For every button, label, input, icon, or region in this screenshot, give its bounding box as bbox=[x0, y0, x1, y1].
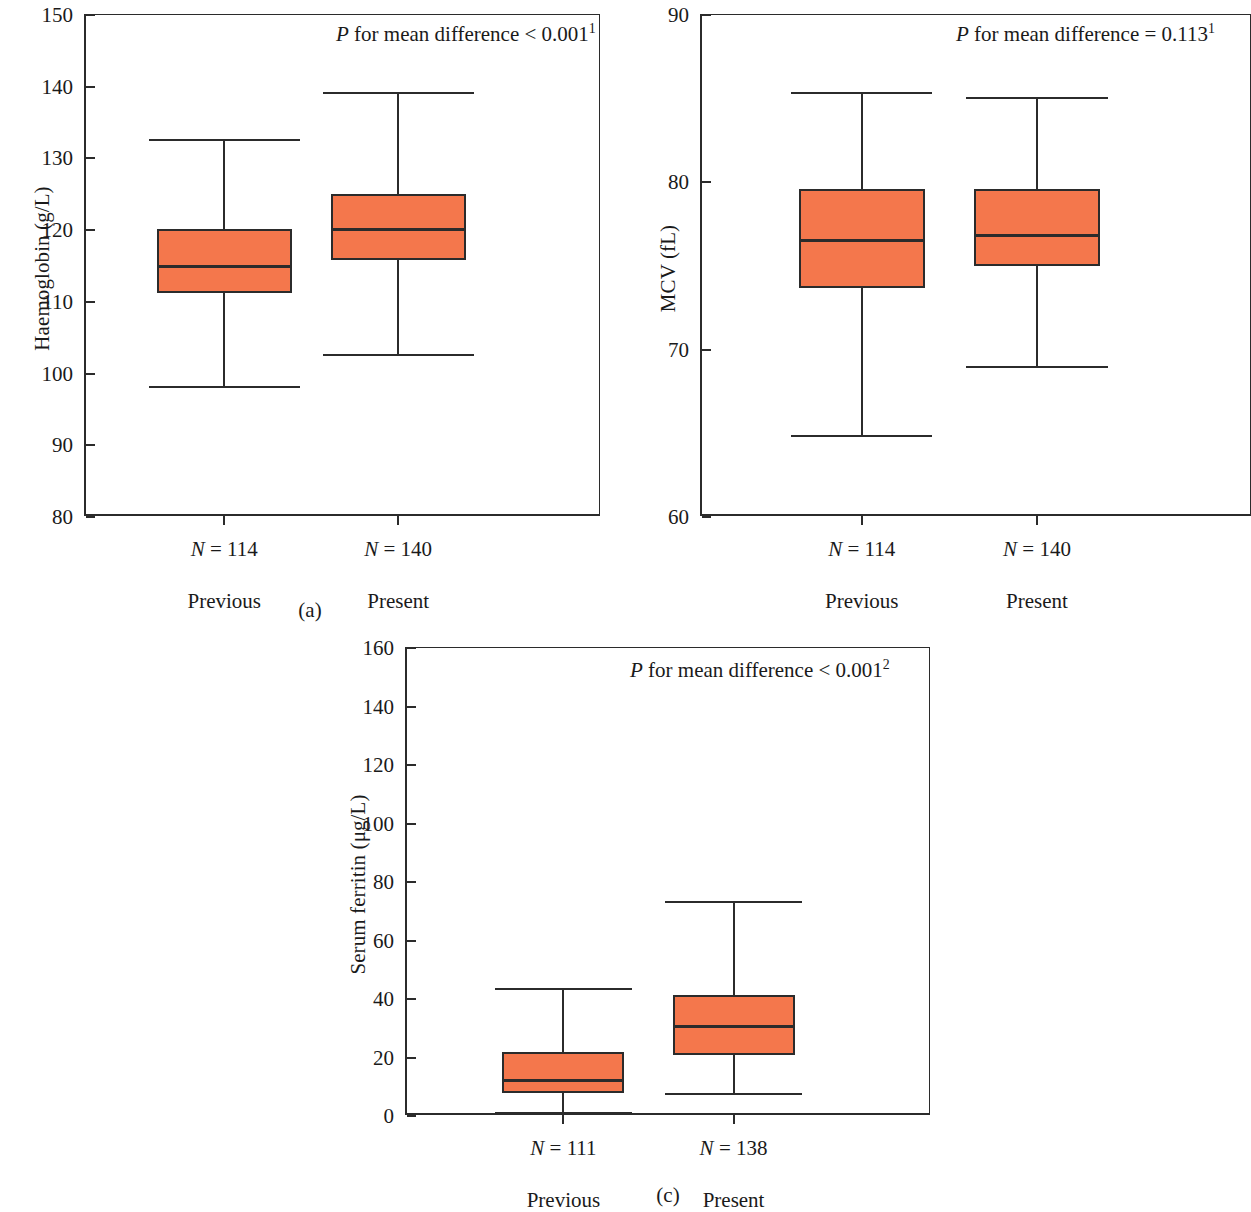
x-category-label: N = 138Present bbox=[700, 1138, 768, 1211]
whisker-lower-cap bbox=[149, 386, 300, 388]
plot-area-a: 8090100110120130140150N = 114PreviousN =… bbox=[84, 14, 600, 516]
y-tick-label: 60 bbox=[668, 507, 702, 528]
whisker-lower-cap bbox=[665, 1093, 802, 1095]
y-tick-mark bbox=[86, 301, 95, 303]
y-tick-mark bbox=[407, 940, 416, 942]
whisker-upper-stem bbox=[397, 92, 399, 194]
x-category-label: N = 140Present bbox=[364, 539, 432, 612]
iqr-box bbox=[157, 229, 292, 294]
box-plot-present bbox=[974, 15, 1100, 514]
group-name-label: Previous bbox=[188, 591, 262, 612]
x-tick-mark bbox=[397, 514, 399, 525]
y-tick-label: 90 bbox=[52, 435, 86, 456]
whisker-upper-cap bbox=[966, 97, 1107, 99]
y-tick-label: 40 bbox=[373, 989, 407, 1010]
p-symbol-c: P bbox=[630, 658, 643, 682]
p-symbol-b: P bbox=[956, 22, 969, 46]
x-tick-mark bbox=[223, 514, 225, 525]
median-line bbox=[157, 265, 292, 268]
box-plot-present bbox=[331, 15, 466, 514]
whisker-lower-cap bbox=[323, 354, 474, 356]
y-tick-mark bbox=[407, 881, 416, 883]
y-axis-label-b: MCV (fL) bbox=[656, 169, 681, 369]
median-line bbox=[502, 1079, 624, 1082]
x-category-label: N = 140Present bbox=[1003, 539, 1071, 612]
plot-area-b: 60708090N = 114PreviousN = 140Present bbox=[700, 14, 1251, 516]
y-tick-label: 150 bbox=[42, 5, 87, 26]
whisker-lower-stem bbox=[733, 1055, 735, 1092]
y-tick-label: 140 bbox=[363, 696, 408, 717]
sample-size-label: N = 140 bbox=[364, 539, 432, 560]
whisker-upper-cap bbox=[323, 92, 474, 94]
x-category-label: N = 114Previous bbox=[825, 539, 899, 612]
group-name-label: Previous bbox=[825, 591, 899, 612]
sample-size-label: N = 111 bbox=[527, 1138, 601, 1159]
whisker-lower-cap bbox=[966, 366, 1107, 368]
y-tick-label: 80 bbox=[373, 872, 407, 893]
group-name-label: Present bbox=[364, 591, 432, 612]
y-tick-mark bbox=[702, 14, 711, 16]
whisker-upper-cap bbox=[495, 988, 632, 990]
y-axis-label-c: Serum ferritin (μg/L) bbox=[346, 765, 371, 1005]
whisker-upper-stem bbox=[733, 901, 735, 995]
panel-caption-a: (a) bbox=[298, 600, 321, 621]
y-tick-mark bbox=[702, 181, 711, 183]
y-tick-mark bbox=[86, 157, 95, 159]
whisker-lower-stem bbox=[223, 293, 225, 386]
y-tick-label: 160 bbox=[363, 638, 408, 659]
p-annotation-a: P for mean difference < 0.0011 bbox=[336, 24, 596, 45]
plot-area-c: 020406080100120140160N = 111PreviousN = … bbox=[405, 647, 930, 1115]
group-name-label: Present bbox=[700, 1190, 768, 1211]
p-superscript-a: 1 bbox=[589, 21, 596, 36]
whisker-lower-stem bbox=[397, 260, 399, 354]
whisker-lower-cap bbox=[791, 435, 932, 437]
y-tick-label: 0 bbox=[384, 1106, 408, 1127]
y-tick-mark bbox=[407, 1115, 416, 1117]
whisker-upper-stem bbox=[223, 139, 225, 229]
whisker-upper-cap bbox=[665, 901, 802, 903]
boxplot-figure: 8090100110120130140150N = 114PreviousN =… bbox=[0, 0, 1251, 1212]
whisker-upper-stem bbox=[1036, 97, 1038, 189]
iqr-box bbox=[974, 189, 1100, 266]
whisker-upper-cap bbox=[791, 92, 932, 94]
whisker-lower-stem bbox=[861, 288, 863, 435]
x-tick-mark bbox=[733, 1113, 735, 1124]
y-tick-label: 140 bbox=[42, 76, 87, 97]
y-tick-mark bbox=[86, 86, 95, 88]
y-tick-mark bbox=[702, 349, 711, 351]
y-tick-mark bbox=[86, 229, 95, 231]
sample-size-label: N = 114 bbox=[188, 539, 262, 560]
y-tick-mark bbox=[407, 764, 416, 766]
y-tick-label: 130 bbox=[42, 148, 87, 169]
panel-c: 020406080100120140160N = 111PreviousN = … bbox=[300, 630, 960, 1212]
box-plot-previous bbox=[502, 648, 624, 1113]
y-tick-mark bbox=[86, 373, 95, 375]
x-category-label: N = 111Previous bbox=[527, 1138, 601, 1211]
whisker-upper-cap bbox=[149, 139, 300, 141]
y-tick-mark bbox=[407, 998, 416, 1000]
whisker-upper-stem bbox=[562, 988, 564, 1052]
sample-size-label: N = 138 bbox=[700, 1138, 768, 1159]
y-axis-label-a: Haemoglobin (g/L) bbox=[30, 169, 55, 369]
y-tick-mark bbox=[407, 1057, 416, 1059]
p-annotation-c: P for mean difference < 0.0012 bbox=[630, 660, 890, 681]
p-text-c: for mean difference < 0.001 bbox=[643, 658, 883, 682]
group-name-label: Present bbox=[1003, 591, 1071, 612]
p-superscript-c: 2 bbox=[883, 657, 890, 672]
p-superscript-b: 1 bbox=[1208, 21, 1215, 36]
x-tick-mark bbox=[861, 514, 863, 525]
median-line bbox=[673, 1025, 795, 1028]
median-line bbox=[331, 228, 466, 231]
x-category-label: N = 114Previous bbox=[188, 539, 262, 612]
y-tick-label: 90 bbox=[668, 5, 702, 26]
whisker-lower-stem bbox=[1036, 266, 1038, 366]
y-tick-label: 60 bbox=[373, 930, 407, 951]
x-tick-mark bbox=[1036, 514, 1038, 525]
x-tick-mark bbox=[562, 1113, 564, 1124]
y-tick-mark bbox=[86, 516, 95, 518]
group-name-label: Previous bbox=[527, 1190, 601, 1211]
box-plot-previous bbox=[799, 15, 925, 514]
box-plot-present bbox=[673, 648, 795, 1113]
median-line bbox=[974, 234, 1100, 237]
median-line bbox=[799, 239, 925, 242]
